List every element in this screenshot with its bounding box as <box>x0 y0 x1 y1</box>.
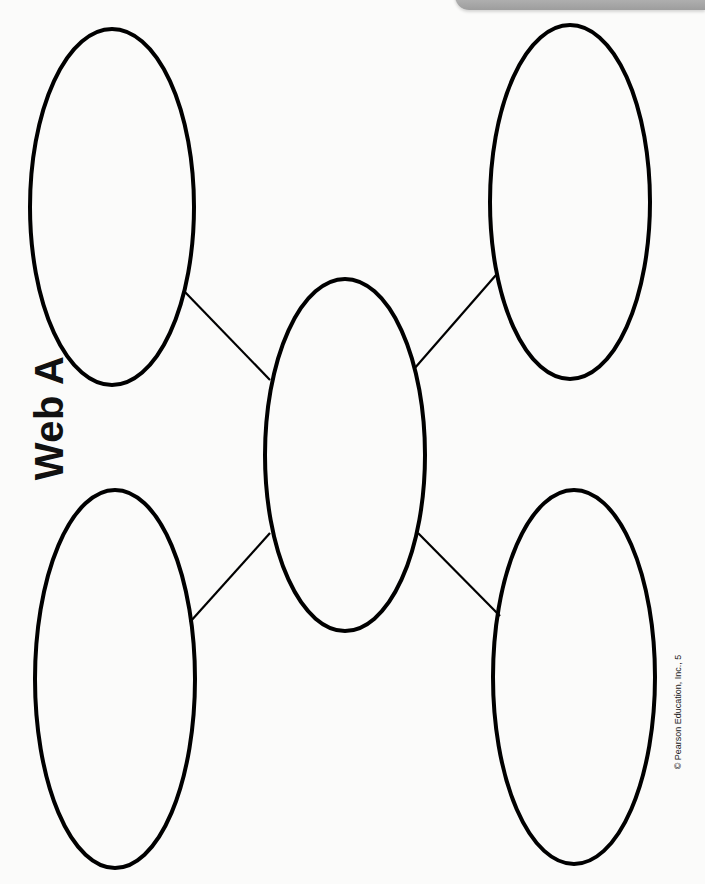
worksheet-title: Web A <box>27 356 72 481</box>
web-node-bottom-left <box>35 490 195 868</box>
connector-bottom-left <box>190 533 270 622</box>
web-node-bottom-right <box>493 490 655 864</box>
web-node-top-left <box>30 29 194 385</box>
web-node-center <box>265 279 425 631</box>
web-node-top-right <box>490 25 650 379</box>
connector-top-left <box>184 291 270 380</box>
connector-top-right <box>414 275 496 369</box>
copyright-notice: © Pearson Education, Inc., 5 <box>673 655 683 770</box>
connector-bottom-right <box>418 533 500 616</box>
